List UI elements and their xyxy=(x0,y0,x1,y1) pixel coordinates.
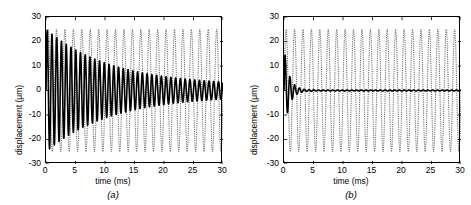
x-axis-title-a: time (ms) xyxy=(83,176,143,186)
y-tick-label: 0 xyxy=(260,85,279,94)
y-tick-label: -10 xyxy=(22,110,41,119)
y-tick-label: -10 xyxy=(260,110,279,119)
plot-area-a xyxy=(45,16,222,163)
y-axis-title-a: displacement (μm) xyxy=(14,85,24,155)
y-tick-label: -20 xyxy=(260,134,279,143)
y-tick-label: 20 xyxy=(260,36,279,45)
curve-solid xyxy=(46,30,223,148)
plot-area-b xyxy=(283,16,460,163)
plot-curves-b xyxy=(284,17,461,164)
y-tick-label: 10 xyxy=(260,61,279,70)
x-tick-label: 25 xyxy=(184,166,202,175)
y-tick-label: 20 xyxy=(22,36,41,45)
x-tick-label: 10 xyxy=(333,166,351,175)
y-tick-label: 30 xyxy=(22,12,41,21)
x-tick-label: 10 xyxy=(95,166,113,175)
plot-curves-a xyxy=(46,17,223,164)
panel-a: displacement (μm) time (ms) (a) -30-20-1… xyxy=(0,0,236,205)
panel-label-a: (a) xyxy=(103,189,123,200)
x-tick-label: 15 xyxy=(125,166,143,175)
figure-two-panel-displacement: displacement (μm) time (ms) (a) -30-20-1… xyxy=(0,0,471,205)
x-tick-label: 5 xyxy=(66,166,84,175)
x-axis-title-b: time (ms) xyxy=(321,176,381,186)
panel-b: displacement (μm) time (ms) (b) -30-20-1… xyxy=(235,0,471,205)
x-tick-label: 30 xyxy=(451,166,469,175)
y-axis-title-b: displacement (μm) xyxy=(249,85,259,155)
x-tick-label: 15 xyxy=(363,166,381,175)
panel-label-b: (b) xyxy=(341,189,361,200)
y-tick-label: -20 xyxy=(22,134,41,143)
x-tick-label: 0 xyxy=(274,166,292,175)
x-tick-label: 20 xyxy=(154,166,172,175)
x-tick-label: 5 xyxy=(304,166,322,175)
y-tick-label: 10 xyxy=(22,61,41,70)
x-tick-label: 20 xyxy=(392,166,410,175)
y-tick-label: 0 xyxy=(22,85,41,94)
x-tick-label: 25 xyxy=(422,166,440,175)
y-tick-label: 30 xyxy=(260,12,279,21)
x-tick-label: 30 xyxy=(213,166,231,175)
x-tick-label: 0 xyxy=(36,166,54,175)
